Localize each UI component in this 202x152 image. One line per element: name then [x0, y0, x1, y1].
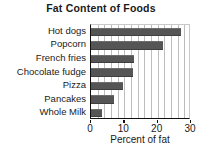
plot-area: [90, 24, 190, 119]
category-label-whole-milk: Whole Milk: [40, 107, 86, 117]
bar-row: [91, 82, 189, 90]
bar-whole-milk: [91, 109, 102, 117]
bar-pancakes: [91, 95, 114, 103]
bar-row: [91, 55, 189, 63]
x-tick-label-30: 30: [179, 123, 201, 134]
x-axis-ticks: 0102030: [0, 120, 202, 134]
category-label-pancakes: Pancakes: [44, 94, 86, 104]
bar-chocolate-fudge: [91, 68, 133, 76]
category-label-chocolate-fudge: Chocolate fudge: [17, 67, 86, 77]
category-label-hot-dogs: Hot dogs: [48, 26, 86, 36]
x-tick-label-20: 20: [146, 123, 168, 134]
category-label-pizza: Pizza: [63, 80, 86, 90]
category-label-popcorn: Popcorn: [51, 39, 86, 49]
bar-pizza: [91, 82, 123, 90]
bar-french-fries: [91, 55, 134, 63]
bar-row: [91, 109, 189, 117]
x-tick-label-0: 0: [79, 123, 101, 134]
bar-series: [91, 25, 189, 118]
bar-hot-dogs: [91, 28, 181, 36]
x-tick-label-10: 10: [112, 123, 134, 134]
x-axis-title: Percent of fat: [90, 134, 190, 145]
bar-row: [91, 95, 189, 103]
chart-figure: Fat Content of Foods Hot dogsPopcornFren…: [0, 0, 202, 152]
category-axis-labels: Hot dogsPopcornFrench friesChocolate fud…: [0, 24, 88, 119]
chart-title: Fat Content of Foods: [0, 2, 202, 14]
category-label-french-fries: French fries: [36, 53, 86, 63]
bar-popcorn: [91, 41, 163, 49]
bar-row: [91, 28, 189, 36]
bar-row: [91, 68, 189, 76]
bar-row: [91, 41, 189, 49]
